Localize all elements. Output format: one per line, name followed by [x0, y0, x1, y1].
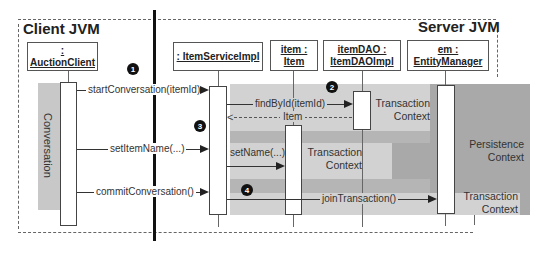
step-badge-3: 3: [194, 120, 206, 132]
lifeline-persistence-end: [474, 215, 475, 225]
msg-set-item-name-label: setItemName(...): [108, 143, 186, 154]
msg-commit-conversation-label: commitConversation(): [94, 186, 196, 197]
lifeline-entity-manager-bottom: [445, 214, 446, 226]
mid-band-1: [230, 131, 430, 143]
participant-auction-client: : AuctionClient: [27, 42, 98, 71]
transaction-context-label-1: Transaction Context: [372, 97, 430, 123]
activation-entity-manager: [437, 85, 455, 214]
participant-item: item : Item: [270, 40, 318, 71]
lifeline-item-dao: [362, 71, 363, 91]
mid-band-2: [230, 179, 430, 193]
arrow-head-icon: [200, 188, 209, 196]
persistence-context-label: Persistence Context: [462, 138, 524, 164]
step-badge-1: 1: [127, 63, 139, 75]
client-jvm-title: Client JVM: [23, 20, 100, 37]
msg-set-name-line: [227, 166, 277, 167]
participant-entity-manager: em : EntityManager: [407, 40, 489, 71]
arrow-head-icon: [344, 100, 353, 108]
lifeline-item-service-impl: [218, 71, 219, 86]
frame-bottom-border: [18, 232, 473, 233]
transaction-context-label-2: Transaction Context: [304, 146, 362, 172]
participant-item-dao: itemDAO : ItemDAOImpl: [323, 40, 401, 71]
arrow-head-icon: [200, 145, 209, 153]
arrow-head-icon: [276, 162, 285, 170]
arrow-head-icon: [200, 86, 209, 94]
jvm-divider: [153, 10, 156, 241]
lifeline-item-service-impl-bottom: [218, 215, 219, 227]
msg-join-transaction-label: joinTransaction(): [320, 193, 398, 204]
msg-start-conversation-label: startConversation(itemId): [86, 84, 202, 95]
frame-left-border: [18, 24, 19, 229]
open-arrow-left-icon: <: [227, 112, 233, 122]
activation-auction-client: [60, 82, 77, 226]
lifeline-item-bottom: [293, 215, 294, 227]
participant-item-service-impl: : ItemServiceImpl: [173, 42, 263, 71]
msg-item-return-label: Item: [280, 111, 305, 122]
activation-item: [285, 125, 302, 215]
transaction-context-label-3: Transaction Context: [458, 190, 518, 216]
conversation-label: Conversation: [42, 113, 54, 178]
msg-find-by-id-label: findById(itemId): [253, 98, 327, 109]
lifeline-item-dao-mid: [362, 130, 363, 227]
step-badge-2: 2: [326, 81, 338, 93]
step-badge-4: 4: [241, 184, 253, 196]
activation-item-dao: [353, 91, 371, 130]
server-jvm-title: Server JVM: [418, 18, 500, 35]
activation-item-service-impl: [209, 86, 227, 215]
arrow-head-icon: [428, 195, 437, 203]
msg-set-name-label: setName(...): [230, 147, 285, 158]
lifeline-entity-manager: [445, 71, 446, 85]
